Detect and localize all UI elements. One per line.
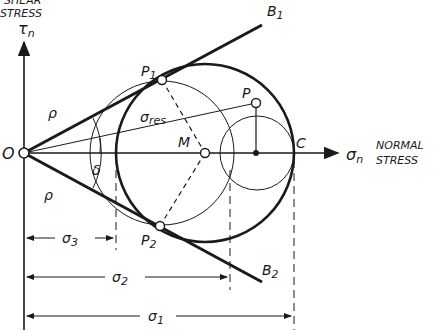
label-c: C bbox=[296, 135, 306, 151]
label-sigma-res: σres bbox=[140, 109, 166, 127]
point-p1 bbox=[158, 76, 167, 85]
label-p: P bbox=[242, 85, 251, 101]
x-axis-label-line2: STRESS bbox=[376, 154, 418, 167]
label-origin: O bbox=[2, 144, 15, 163]
y-axis-symbol: τn bbox=[18, 19, 35, 40]
x-axis-label-line1: NORMAL bbox=[376, 139, 424, 152]
label-p2: P2 bbox=[141, 232, 156, 251]
label-delta: δ bbox=[92, 162, 101, 178]
point-origin bbox=[19, 148, 29, 158]
point-m bbox=[201, 149, 210, 158]
point-p2 bbox=[156, 222, 165, 231]
dot-p-foot bbox=[253, 150, 259, 156]
label-rho-lower: ρ bbox=[44, 187, 53, 203]
y-axis-label-line1: SHEAR bbox=[4, 0, 41, 7]
x-axis-symbol: σn bbox=[346, 145, 363, 166]
diagram-svg: SHEAR STRESS τn σn NORMAL STRESS O M C P… bbox=[0, 0, 440, 334]
label-p1: P1 bbox=[141, 63, 156, 82]
label-m: M bbox=[178, 134, 190, 150]
label-b1: B1 bbox=[267, 3, 284, 22]
label-rho-upper: ρ bbox=[48, 105, 57, 121]
mohr-circle-diagram: SHEAR STRESS τn σn NORMAL STRESS O M C P… bbox=[0, 0, 440, 334]
label-b2: B2 bbox=[262, 262, 279, 281]
point-p bbox=[252, 99, 261, 108]
